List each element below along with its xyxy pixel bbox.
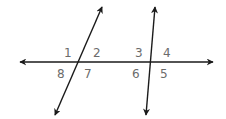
angle-label-5: 5: [160, 67, 168, 81]
angle-diagram: 1 2 3 4 8 7 6 5: [0, 0, 226, 119]
angle-label-7: 7: [84, 67, 92, 81]
right-transversal-line: [146, 7, 155, 115]
angle-label-3: 3: [135, 46, 143, 60]
angle-label-6: 6: [132, 67, 140, 81]
angle-label-2: 2: [93, 46, 101, 60]
left-transversal-line: [55, 7, 102, 115]
angle-label-4: 4: [163, 46, 171, 60]
angle-label-1: 1: [64, 46, 72, 60]
angle-label-8: 8: [57, 67, 65, 81]
